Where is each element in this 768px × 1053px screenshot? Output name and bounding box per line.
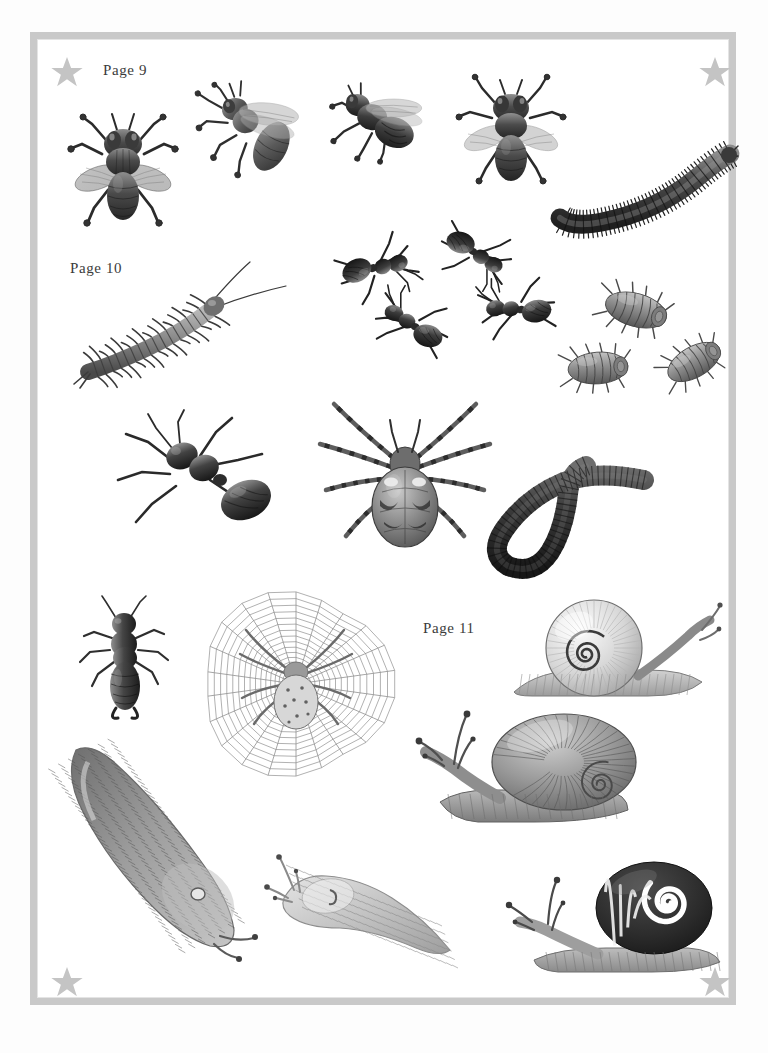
- page-label-11: Page 11: [423, 620, 475, 637]
- specimen-slug-large-dark: [58, 736, 274, 962]
- specimen-centipede: [64, 260, 290, 388]
- specimen-snail-pale-banded: [498, 596, 724, 714]
- specimen-woodlouse-group: [548, 276, 740, 398]
- star-icon: [50, 965, 84, 999]
- specimen-housefly-dorsal: [62, 104, 184, 232]
- specimen-earwig: [68, 596, 182, 720]
- specimen-snail-garden: [414, 706, 650, 828]
- specimen-hoverfly-angled: [186, 66, 319, 199]
- specimen-fly-side: [321, 69, 436, 169]
- sticker-sheet-page: Page 9 Page 10 Page 11: [0, 0, 768, 1053]
- specimen-slug-pale: [264, 846, 460, 964]
- specimen-snail-striped-dark: [502, 856, 728, 984]
- page-label-9: Page 9: [103, 62, 147, 79]
- specimen-earthworm: [468, 446, 646, 574]
- specimen-ant-group: [318, 216, 556, 356]
- star-icon: [50, 55, 84, 89]
- specimen-millipede: [546, 136, 738, 236]
- star-icon: [698, 55, 732, 89]
- specimen-black-ant-large: [104, 404, 284, 560]
